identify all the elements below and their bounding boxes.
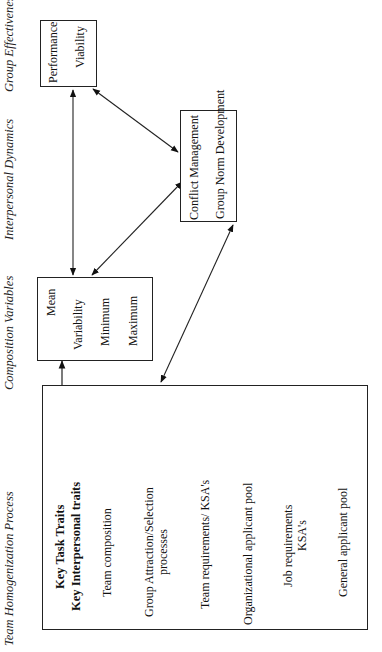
team-requirements-ksas: Team requirements/ KSA's	[198, 480, 213, 609]
team-composition: Team composition	[100, 508, 115, 597]
job-requirements: Job requirements	[281, 505, 296, 587]
processes: processes	[156, 529, 171, 575]
key-task-traits: Key Task Traits	[53, 505, 68, 589]
group-norm-development: Group Norm Development	[213, 90, 228, 219]
effectiveness-performance: Performance	[46, 22, 61, 83]
general-applicant-pool: General applicant pool	[336, 488, 351, 597]
homogenization-box: Key Task Traits Key Interpersonal traits…	[42, 385, 368, 630]
dynamics-box: Conflict Management Group Norm Developme…	[180, 110, 237, 222]
composition-mean: Mean	[44, 289, 59, 316]
effectiveness-box: Performance Viability	[40, 20, 97, 87]
conflict-management: Conflict Management	[187, 115, 202, 220]
arrow-homog-dynamics	[161, 225, 233, 382]
composition-maximum: Maximum	[126, 296, 141, 346]
organizational-applicant-pool: Organizational applicant pool	[241, 483, 256, 625]
job-ksas: KSA's	[295, 520, 310, 551]
arrow-dynamics-effectiveness	[93, 89, 178, 152]
arrow-composition-dynamics	[92, 182, 182, 275]
effectiveness-viability: Viability	[73, 26, 88, 68]
diagram-stage: Team Homogenization Process Composition …	[0, 0, 382, 652]
composition-minimum: Minimum	[98, 298, 113, 346]
group-attraction-selection: Group Attraction/Selection	[142, 487, 157, 617]
composition-variability: Variability	[71, 299, 86, 350]
key-interpersonal-traits: Key Interpersonal traits	[69, 482, 84, 611]
composition-box: Mean Variability Minimum Maximum	[37, 277, 153, 361]
